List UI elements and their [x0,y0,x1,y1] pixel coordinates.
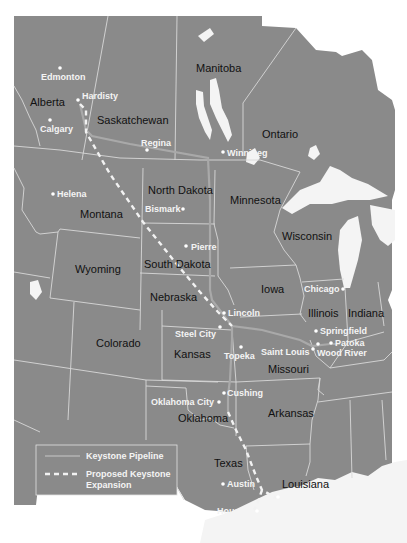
city-label-steel-city: Steel City [175,329,216,339]
city-label-springfield: Springfield [320,326,367,336]
region-label-montana: Montana [80,208,124,220]
city-label-oklahoma-city: Oklahoma City [151,397,214,407]
city-label-regina: Regina [141,138,172,148]
city-dot-port-arthur [276,495,280,499]
city-dot-steel-city [218,325,222,329]
city-dot-chicago [341,287,345,291]
city-dot-houston [255,509,259,513]
city-dot-wood-river [316,342,320,346]
legend-existing-label: Keystone Pipeline [86,451,164,461]
region-label-nebraska: Nebraska [150,291,198,303]
city-dot-winnipeg [221,150,225,154]
city-label-calgary: Calgary [40,124,73,134]
legend-proposed-label-line2: Expansion [86,480,132,490]
region-label-saskatchewan: Saskatchewan [97,114,169,126]
region-label-missouri: Missouri [268,363,309,375]
region-label-wisconsin: Wisconsin [282,230,332,242]
city-label-patoka: Patoka [335,338,366,348]
city-label-port-arthur: Port Arthur [281,491,329,501]
city-dot-regina [145,148,149,152]
city-label-helena: Helena [57,189,88,199]
city-label-hardisty: Hardisty [82,91,118,101]
city-label-austin: Austin [227,479,255,489]
city-dot-bismark [181,207,185,211]
city-dot-cushing [222,391,226,395]
city-dot-springfield [314,329,318,333]
city-dot-helena [51,192,55,196]
city-label-lincoln: Lincoln [228,308,260,318]
city-dot-patoka [329,341,333,345]
city-label-edmonton: Edmonton [41,72,86,82]
region-label-kansas: Kansas [174,348,211,360]
city-label-chicago: Chicago [304,284,340,294]
region-label-illinois: Illinois [308,307,339,319]
region-label-arkansas: Arkansas [268,407,314,419]
region-label-louisiana: Louisiana [282,478,330,490]
city-label-wood-river: Wood River [317,348,367,358]
city-label-cushing: Cushing [227,388,263,398]
city-dot-lincoln [222,311,226,315]
city-label-winnipeg: Winnipeg [227,148,267,158]
region-label-alberta: Alberta [30,96,66,108]
legend-proposed-label-line1: Proposed Keystone [86,469,171,479]
region-label-indiana: Indiana [348,307,385,319]
region-label-texas: Texas [214,457,243,469]
city-label-houston: Houston [217,506,254,516]
region-label-manitoba: Manitoba [196,62,242,74]
city-dot-topeka [239,345,243,349]
city-dot-pierre [184,244,188,248]
city-dot-oklahoma-city [217,400,221,404]
city-label-topeka: Topeka [224,351,256,361]
region-label-north-dakota: North Dakota [148,184,214,196]
region-label-wyoming: Wyoming [75,263,121,275]
city-label-saint-louis: Saint Louis [261,347,310,357]
city-dot-saint-louis [311,347,315,351]
city-dot-edmonton [58,66,62,70]
city-dot-calgary [48,118,52,122]
region-label-iowa: Iowa [261,283,285,295]
region-label-ontario: Ontario [262,128,298,140]
city-dot-hardisty [76,98,80,102]
city-dot-austin [221,482,225,486]
map-legend: Keystone Pipeline Proposed Keystone Expa… [36,445,177,495]
city-label-bismark: Bismark [145,204,182,214]
region-label-south-dakota: South Dakota [144,258,212,270]
city-label-pierre: Pierre [191,242,217,252]
region-label-colorado: Colorado [96,337,141,349]
region-label-oklahoma: Oklahoma [178,412,229,424]
region-label-minnesota: Minnesota [230,194,282,206]
keystone-pipeline-map: Alberta Saskatchewan Manitoba Ontario Mo… [0,0,407,543]
